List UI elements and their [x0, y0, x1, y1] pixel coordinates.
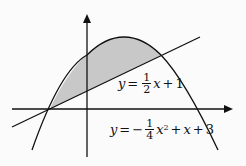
fraction-numerator: 1: [142, 72, 151, 83]
label-constant: 3: [206, 122, 214, 137]
label-y: y: [118, 76, 125, 91]
y-axis-arrow-icon: [83, 14, 91, 23]
label-constant: 1: [176, 76, 184, 91]
line-equation-label: y = 1 2 x + 1: [118, 72, 184, 95]
label-plus: +: [171, 122, 182, 137]
label-x: x: [153, 76, 160, 91]
label-plus: +: [163, 76, 174, 91]
fraction-numerator: 1: [145, 118, 154, 129]
label-plus: +: [193, 122, 204, 137]
label-minus: −: [132, 122, 143, 137]
fraction-denominator: 2: [142, 84, 151, 95]
label-equals: =: [127, 76, 138, 91]
parabola-equation-label: y = − 1 4 x2 + x + 3: [110, 118, 214, 141]
label-x: x: [184, 122, 191, 137]
label-equals: =: [119, 122, 130, 137]
graph-figure: y = 1 2 x + 1 y = − 1 4 x2 + x + 3: [0, 0, 246, 166]
fraction-one-quarter: 1 4: [145, 118, 154, 141]
label-exponent: 2: [164, 123, 169, 132]
label-x: x: [156, 122, 163, 137]
fraction-denominator: 4: [145, 130, 154, 141]
label-y: y: [110, 122, 117, 137]
fraction-one-half: 1 2: [142, 72, 151, 95]
x-axis-arrow-icon: [224, 105, 233, 113]
